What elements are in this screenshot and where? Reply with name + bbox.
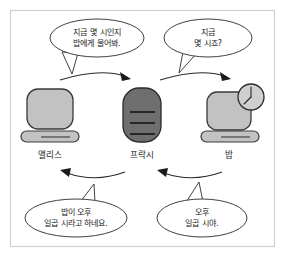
arrow-head-alice-to-proxy xyxy=(120,72,131,81)
arrow-line-bob-to-proxy xyxy=(164,172,222,178)
arrow-alice-to-proxy xyxy=(60,72,131,81)
bubble-line-proxy-reply-1: 밥이 오후 xyxy=(61,207,93,217)
clock-icon xyxy=(238,84,264,110)
arrow-proxy-to-bob xyxy=(160,72,231,81)
bubble-line-proxy-request-2: 몇 시죠? xyxy=(194,38,222,48)
speech-bubble-proxy-reply: 밥이 오후 일곱 시라고 하네요. xyxy=(25,184,127,237)
arrow-head-proxy-to-bob xyxy=(220,72,231,81)
speech-bubble-alice-request: 지금 몇 시인지 밥에게 물어봐. xyxy=(50,19,144,74)
bubble-line-bob-reply-1: 오후 xyxy=(195,207,210,217)
arrow-line-proxy-to-bob xyxy=(160,73,224,80)
node-proxy: 프락시 xyxy=(123,88,161,160)
arrow-proxy-to-alice xyxy=(60,168,125,178)
desktop-computer-with-clock-icon xyxy=(201,84,264,142)
node-label-proxy: 프락시 xyxy=(130,149,154,160)
arrow-head-bob-to-proxy xyxy=(157,168,168,177)
bubble-line-bob-reply-2: 일곱 시야. xyxy=(185,218,218,228)
node-label-bob: 밥 xyxy=(225,150,233,160)
arrow-line-proxy-to-alice xyxy=(67,172,125,178)
bubble-line-alice-request-1: 지금 몇 시인지 xyxy=(73,27,120,37)
monitor-screen-alice xyxy=(27,89,73,129)
proxy-server-icon xyxy=(123,88,161,142)
speech-bubble-bob-reply: 오후 일곱 시야. xyxy=(157,182,247,237)
desktop-computer-icon xyxy=(21,89,79,142)
bubble-line-proxy-request-1: 지금 xyxy=(201,27,216,37)
arrow-head-proxy-to-alice xyxy=(60,168,71,177)
arrow-bob-to-proxy xyxy=(157,168,222,178)
node-alice: 앨리스 xyxy=(21,89,79,160)
bubble-line-alice-request-2: 밥에게 물어봐. xyxy=(73,38,120,48)
node-bob: 밥 xyxy=(201,84,264,160)
arrow-line-alice-to-proxy xyxy=(60,73,124,80)
node-label-alice: 앨리스 xyxy=(38,150,62,160)
speech-bubble-proxy-request: 지금 몇 시죠? xyxy=(164,19,252,73)
bubble-line-proxy-reply-2: 일곱 시라고 하네요. xyxy=(44,218,108,228)
proxy-time-query-diagram: 지금 몇 시인지 밥에게 물어봐. 지금 몇 시죠? 앨리 xyxy=(0,0,285,257)
